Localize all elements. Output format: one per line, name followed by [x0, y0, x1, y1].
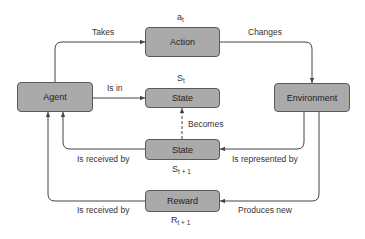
next-state-label: State: [172, 145, 193, 155]
action-symbol: at: [177, 12, 184, 23]
reward-node: Reward: [145, 190, 220, 212]
action-label: Action: [170, 37, 195, 47]
next-state-symbol: St + 1: [172, 164, 191, 175]
environment-node: Environment: [274, 83, 350, 112]
state-received-label: Is received by: [77, 154, 129, 164]
action-node: Action: [145, 27, 220, 57]
agent-node: Agent: [17, 82, 93, 112]
changes-label: Changes: [248, 27, 282, 37]
environment-label: Environment: [287, 93, 338, 103]
is-in-label: Is in: [107, 83, 123, 93]
changes-arrow: [220, 42, 312, 83]
state-node: State: [145, 88, 220, 108]
next-state-node: State: [145, 139, 220, 160]
state-label: State: [172, 93, 193, 103]
takes-arrow: [55, 42, 145, 82]
takes-label: Takes: [92, 27, 114, 37]
reward-label: Reward: [167, 196, 198, 206]
reward-received-label: Is received by: [77, 205, 129, 215]
represented-label: Is represented by: [232, 154, 298, 164]
becomes-label: Becomes: [188, 119, 223, 129]
reward-symbol: Rt + 1: [171, 215, 190, 226]
represented-arrow: [220, 112, 304, 149]
produces-label: Produces new: [238, 205, 292, 215]
agent-label: Agent: [43, 92, 67, 102]
state-received-arrow: [63, 112, 145, 149]
state-symbol: St: [177, 73, 185, 84]
